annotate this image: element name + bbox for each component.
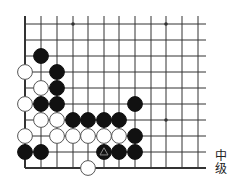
- black-stone[interactable]: [34, 145, 49, 160]
- white-stone[interactable]: [50, 129, 65, 144]
- black-stone[interactable]: [34, 49, 49, 64]
- black-stone[interactable]: [128, 145, 143, 160]
- white-stone[interactable]: [18, 129, 33, 144]
- white-stone[interactable]: [81, 129, 96, 144]
- black-stone[interactable]: [50, 97, 65, 112]
- black-stone[interactable]: [50, 65, 65, 80]
- star-point: [164, 22, 168, 26]
- white-stone[interactable]: [18, 65, 33, 80]
- black-stone[interactable]: [128, 129, 143, 144]
- black-stone[interactable]: [18, 145, 33, 160]
- white-stone[interactable]: [18, 97, 33, 112]
- go-board: [0, 0, 230, 187]
- black-stone[interactable]: [112, 113, 127, 128]
- white-stone[interactable]: [34, 113, 49, 128]
- white-stone[interactable]: [112, 129, 127, 144]
- black-stone[interactable]: [66, 113, 81, 128]
- star-point: [164, 118, 168, 122]
- white-stone[interactable]: [66, 129, 81, 144]
- white-stone[interactable]: [34, 81, 49, 96]
- black-stone[interactable]: [112, 145, 127, 160]
- star-point: [71, 22, 75, 26]
- black-stone[interactable]: [81, 113, 96, 128]
- difficulty-label: 中 级: [214, 150, 228, 176]
- white-stone[interactable]: [97, 129, 112, 144]
- white-stone[interactable]: [50, 113, 65, 128]
- black-stone[interactable]: [97, 113, 112, 128]
- black-stone[interactable]: [128, 97, 143, 112]
- black-stone[interactable]: [50, 81, 65, 96]
- black-stone[interactable]: [34, 97, 49, 112]
- white-stone[interactable]: [81, 161, 96, 176]
- difficulty-label-line2: 级: [214, 163, 228, 176]
